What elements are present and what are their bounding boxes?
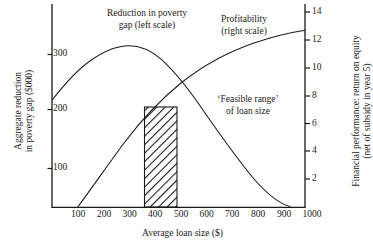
- y-axis-left-title-line2: in poverty gap ($000): [24, 70, 34, 153]
- y-right-tick-6: 6: [312, 118, 342, 128]
- y-axis-right-title-line2: (net of subsidy in year 5): [362, 63, 372, 158]
- poverty-curve-label: Reduction in poverty gap (left scale): [92, 8, 202, 31]
- y-right-tick-14: 14: [312, 6, 342, 16]
- profitability-curve-label: Profitability (right scale): [205, 14, 283, 37]
- y-left-tick-300: 300: [53, 48, 83, 58]
- x-tick-900: 900: [269, 209, 299, 219]
- y-axis-right-ticks: [305, 12, 310, 179]
- feasible-range-label: ‘Feasible range’ of loan size: [196, 94, 300, 117]
- y-axis-left-title: Aggregate reduction in poverty gap ($000…: [13, 36, 35, 186]
- y-right-tick-10: 10: [312, 62, 342, 72]
- y-axis-right-title-line1: Financial performance: return on equity: [351, 35, 361, 186]
- y-left-tick-100: 100: [53, 162, 83, 172]
- y-axis-left-title-line1: Aggregate reduction: [13, 72, 23, 150]
- y-right-tick-2: 2: [312, 173, 342, 183]
- y-right-tick-12: 12: [312, 34, 342, 44]
- y-right-tick-8: 8: [312, 90, 342, 100]
- y-right-tick-4: 4: [312, 145, 342, 155]
- feasible-range-rect: [145, 107, 178, 207]
- y-left-tick-200: 200: [53, 103, 83, 113]
- x-tick-1000: 1000: [297, 209, 327, 219]
- x-axis-title: Average loan size ($): [60, 228, 305, 239]
- y-axis-left-ticks: [48, 55, 53, 169]
- y-axis-right-title: Financial performance: return on equity …: [351, 11, 373, 211]
- feasible-range-box: [145, 107, 178, 207]
